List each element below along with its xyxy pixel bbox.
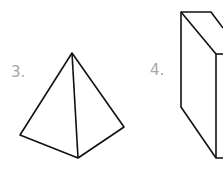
- shapes-canvas: [0, 0, 223, 173]
- pyramid-figure: [20, 53, 124, 158]
- prism-figure: [181, 12, 223, 158]
